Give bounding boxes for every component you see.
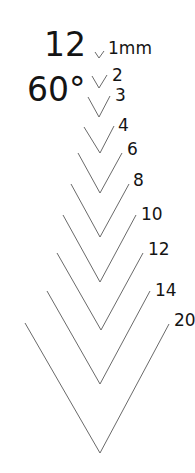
- v-profile-icon: [95, 51, 104, 58]
- size-label: 20: [174, 312, 195, 329]
- v-profile-icon: [71, 184, 129, 237]
- size-label: 2: [112, 67, 123, 84]
- size-label: 14: [155, 282, 177, 299]
- size-label: 6: [127, 141, 138, 158]
- v-profile-icon: [63, 215, 136, 282]
- v-profile-icon: [92, 75, 107, 88]
- v-profile-icon: [47, 291, 150, 384]
- cut-angle: 60°: [27, 73, 86, 106]
- v-profile-icon: [84, 126, 114, 153]
- v-profile-icon: [88, 96, 110, 117]
- v-profile-icon: [78, 153, 122, 193]
- size-label: 3: [115, 87, 126, 104]
- size-label: 8: [133, 172, 144, 189]
- v-gouge-size-diagram: 12 60° 1mm2346810121420: [0, 0, 195, 473]
- v-profile-icon: [57, 253, 143, 330]
- tool-count: 12: [44, 28, 86, 61]
- v-profile-icon: [25, 323, 169, 453]
- size-label: 4: [118, 117, 129, 134]
- size-label: 1mm: [108, 40, 152, 57]
- size-label: 12: [148, 241, 170, 258]
- size-label: 10: [141, 206, 163, 223]
